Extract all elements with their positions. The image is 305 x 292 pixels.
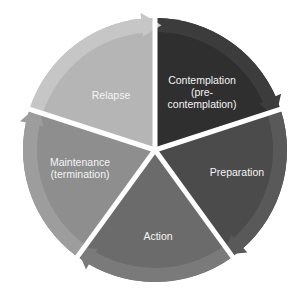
segment-label-action: Action <box>143 230 172 242</box>
segment-label-line: (termination) <box>51 168 110 180</box>
segment-label-preparation: Preparation <box>210 166 264 178</box>
segment-label-line: Action <box>143 230 172 242</box>
segment-label-line: contemplation) <box>168 98 237 110</box>
segment-label-line: Maintenance <box>50 156 110 168</box>
segment-label-line: Preparation <box>210 166 264 178</box>
segment-label-relapse: Relapse <box>92 89 131 101</box>
stages-of-change-cycle-diagram: Contemplation(pre-contemplation)Preparat… <box>0 0 305 292</box>
segment-label-line: Relapse <box>92 89 131 101</box>
segment-label-line: Contemplation <box>168 74 236 86</box>
segment-label-maintenance: Maintenance(termination) <box>50 156 110 180</box>
segment-label-line: (pre- <box>191 86 214 98</box>
